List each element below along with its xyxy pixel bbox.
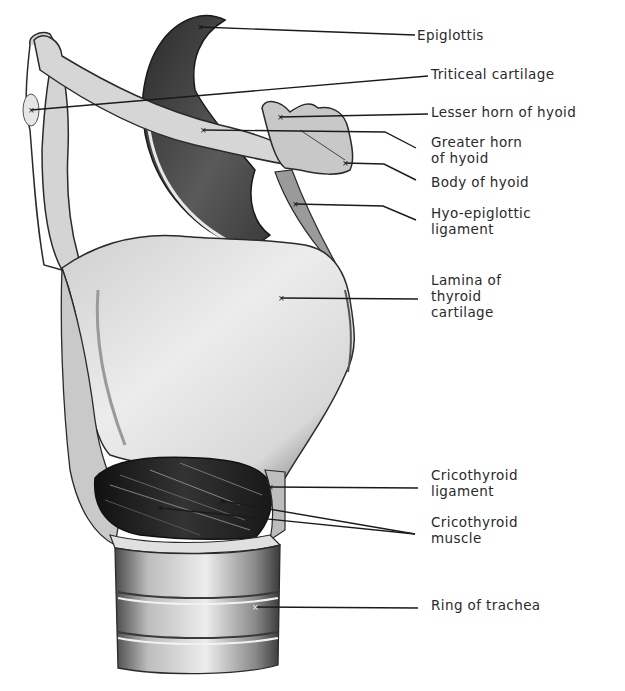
marker-x-icon: ×	[28, 106, 35, 115]
label-cricothyroid-muscle: Cricothyroidmuscle	[431, 514, 518, 546]
leader-line-epiglottis	[200, 27, 415, 35]
label-hyo-epiglottic-ligament: Hyo-epiglotticligament	[431, 205, 531, 237]
thyroid-lamina-shape	[62, 235, 354, 478]
leader-line-body-of-hyoid	[345, 163, 416, 180]
label-lamina-of-thyroid-cartilage: Lamina ofthyroidcartilage	[431, 272, 501, 320]
label-lesser-horn-of-hyoid: Lesser horn of hyoid	[431, 104, 576, 120]
marker-x-icon: ×	[252, 603, 259, 612]
marker-x-icon: ×	[278, 294, 285, 303]
hyoid-body-shape	[262, 102, 353, 175]
marker-x-icon: ×	[200, 126, 207, 135]
marker-x-icon: ×	[292, 200, 299, 209]
label-body-of-hyoid: Body of hyoid	[431, 174, 529, 190]
marker-x-icon: ×	[342, 159, 349, 168]
label-epiglottis: Epiglottis	[417, 27, 484, 43]
marker-x-icon: ×	[197, 23, 204, 32]
leader-line-lamina-of-thyroid-cartilage	[281, 298, 418, 299]
label-triticeal-cartilage: Triticeal cartilage	[431, 66, 554, 82]
label-cricothyroid-ligament: Cricothyroidligament	[431, 467, 518, 499]
leader-line-cricothyroid-ligament	[270, 487, 418, 488]
cricothyroid-muscle-shape	[95, 457, 272, 539]
label-ring-of-trachea: Ring of trachea	[431, 597, 541, 613]
leader-line-hyo-epiglottic-ligament	[295, 204, 416, 220]
marker-x-icon: ×	[157, 504, 164, 513]
leader-line-ring-of-trachea	[255, 607, 418, 608]
label-greater-horn-of-hyoid: Greater hornof hyoid	[431, 134, 522, 166]
marker-x-icon: ×	[267, 483, 274, 492]
marker-x-icon: ×	[219, 497, 226, 506]
marker-x-icon: ×	[277, 113, 284, 122]
